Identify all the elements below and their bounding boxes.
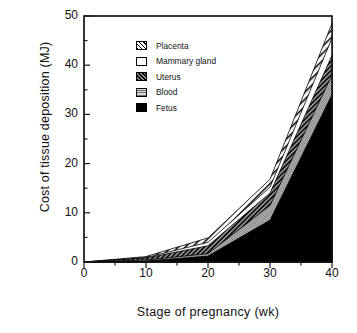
legend-item-fetus: Fetus — [136, 100, 216, 116]
x-tick-label-0: 0 — [69, 266, 99, 280]
legend-item-blood: Blood — [136, 85, 216, 101]
y-tick-text: 20 — [50, 156, 78, 170]
y-tick-text: 10 — [50, 205, 78, 219]
legend-item-mammary-gland: Mammary gland — [136, 54, 216, 70]
x-axis-label: Stage of pregnancy (wk) — [84, 305, 332, 319]
y-tick-text: 50 — [50, 8, 78, 22]
legend-label-placenta: Placenta — [156, 41, 189, 51]
legend-swatch-fetus — [136, 103, 147, 112]
legend-swatch-mammary-gland — [136, 57, 147, 66]
legend-label-fetus: Fetus — [156, 103, 177, 113]
legend-swatch-uterus — [136, 72, 147, 81]
legend-item-uterus: Uterus — [136, 69, 216, 85]
legend-swatch-placenta — [136, 41, 147, 50]
chart-legend: Placenta Mammary gland Uterus Blood Fetu… — [136, 38, 216, 116]
legend-label-uterus: Uterus — [156, 72, 181, 82]
y-tick-text: 30 — [50, 106, 78, 120]
legend-label-mammary-gland: Mammary gland — [156, 56, 216, 66]
x-tick-label-20: 20 — [193, 266, 223, 280]
legend-swatch-blood — [136, 88, 147, 97]
y-tick-text: 40 — [50, 57, 78, 71]
legend-label-blood: Blood — [156, 87, 177, 97]
legend-item-placenta: Placenta — [136, 38, 216, 54]
x-tick-label-10: 10 — [131, 266, 161, 280]
chart-figure: Cost of tissue deposition (MJ) Stage of … — [0, 0, 357, 333]
x-tick-label-30: 30 — [255, 266, 285, 280]
x-tick-label-40: 40 — [317, 266, 347, 280]
